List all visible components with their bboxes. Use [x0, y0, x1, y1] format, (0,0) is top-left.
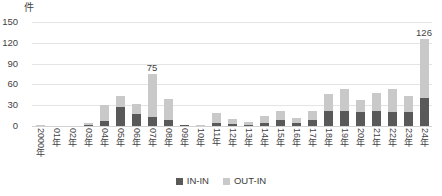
x-axis-tick-label: 09年	[180, 128, 189, 147]
x-axis-tick: 01年	[48, 128, 64, 172]
bar-segment-in-in	[84, 125, 93, 126]
bar-stack[interactable]	[260, 116, 269, 126]
x-axis-tick-label: 08年	[164, 128, 173, 147]
x-axis-tick-label: 2000年	[36, 128, 45, 157]
bar-slot	[288, 22, 304, 126]
bar-slot	[208, 22, 224, 126]
y-axis-tick-label: 30	[0, 100, 18, 110]
bar-stack[interactable]	[228, 119, 237, 126]
x-axis-tick: 21年	[368, 128, 384, 172]
bar-segment-out-in	[308, 111, 317, 119]
x-axis-tick-label: 07年	[148, 128, 157, 147]
x-axis-tick: 14年	[256, 128, 272, 172]
x-axis-tick-label: 19年	[340, 128, 349, 147]
bar-segment-in-in	[116, 107, 125, 126]
x-axis-tick-label: 12年	[228, 128, 237, 147]
bar-segment-out-in	[420, 39, 429, 99]
bar-segment-in-in	[324, 111, 333, 126]
x-axis-tick: 02年	[64, 128, 80, 172]
bar-slot	[368, 22, 384, 126]
bar-slot	[320, 22, 336, 126]
y-axis-tick-label: 60	[0, 79, 18, 89]
bar-segment-out-in	[116, 96, 125, 107]
bar-segment-out-in	[100, 105, 109, 122]
legend-swatch-out-in-icon	[223, 178, 230, 185]
bar-segment-in-in	[276, 120, 285, 126]
bar-stack[interactable]	[292, 118, 301, 126]
x-axis-tick-label: 02年	[68, 128, 77, 147]
legend-label-in-in: IN-IN	[187, 176, 209, 186]
bar-segment-out-in	[196, 125, 205, 126]
bar-stack[interactable]	[276, 111, 285, 126]
x-axis-tick: 24年	[416, 128, 432, 172]
bar-segment-in-in	[308, 120, 317, 126]
bar-segment-in-in	[292, 123, 301, 126]
x-axis-tick-label: 21年	[372, 128, 381, 147]
x-axis-tick-label: 05年	[116, 128, 125, 147]
y-axis-tick-label: 90	[0, 59, 18, 69]
bar-stack[interactable]	[132, 104, 141, 126]
bar-stack[interactable]	[180, 125, 189, 126]
bar-slot	[112, 22, 128, 126]
x-axis-tick-label: 01年	[52, 128, 61, 147]
bar-segment-in-in	[340, 111, 349, 126]
chart-legend: IN-IN OUT-IN	[0, 176, 442, 186]
x-axis-tick: 06年	[128, 128, 144, 172]
x-axis-tick: 17年	[304, 128, 320, 172]
bar-segment-out-in	[260, 116, 269, 124]
x-axis-tick-label: 03年	[84, 128, 93, 147]
bar-stack[interactable]	[308, 111, 317, 126]
bar-slot	[96, 22, 112, 126]
x-axis-tick-label: 23年	[404, 128, 413, 147]
x-axis-tick: 03年	[80, 128, 96, 172]
y-axis-tick-label: 150	[0, 17, 18, 27]
bar-stack[interactable]	[36, 125, 45, 126]
x-axis-tick-label: 16年	[292, 128, 301, 147]
bar-segment-out-in	[404, 96, 413, 112]
bar-slot	[400, 22, 416, 126]
x-axis-tick: 2000年	[32, 128, 48, 172]
bar-segment-in-in	[244, 125, 253, 126]
bar-slot	[192, 22, 208, 126]
bar-stack[interactable]	[100, 105, 109, 126]
x-axis-tick: 05年	[112, 128, 128, 172]
x-axis-tick: 23年	[400, 128, 416, 172]
bar-stack[interactable]: 75	[148, 74, 157, 126]
bar-stack[interactable]	[116, 96, 125, 126]
bar-stack[interactable]	[340, 89, 349, 126]
bar-stack[interactable]	[196, 125, 205, 126]
bar-stack[interactable]	[404, 96, 413, 126]
bar-stack[interactable]	[212, 113, 221, 126]
x-axis-tick-label: 14年	[260, 128, 269, 147]
bar-stack[interactable]	[84, 123, 93, 126]
bar-segment-in-in	[132, 114, 141, 126]
bar-segment-out-in	[388, 89, 397, 112]
bar-segment-in-in	[356, 112, 365, 126]
bar-slot	[64, 22, 80, 126]
bar-stack[interactable]	[244, 122, 253, 126]
bar-slot	[256, 22, 272, 126]
bar-slot	[352, 22, 368, 126]
bar-slot	[176, 22, 192, 126]
stacked-bar-chart: 件 1501209060300 75126 2000年01年02年03年04年0…	[0, 0, 442, 196]
bar-stack[interactable]	[372, 93, 381, 126]
bar-slot	[304, 22, 320, 126]
bar-segment-in-in	[212, 123, 221, 126]
bar-slot	[272, 22, 288, 126]
x-axis-tick-label: 24年	[420, 128, 429, 147]
bar-stack[interactable]	[356, 100, 365, 126]
plot-area: 1501209060300 75126	[32, 22, 432, 126]
legend-entry-out-in: OUT-IN	[223, 176, 266, 186]
gridline	[32, 126, 432, 127]
bar-stack[interactable]: 126	[420, 39, 429, 126]
bar-stack[interactable]	[324, 94, 333, 126]
bar-segment-in-in	[372, 111, 381, 126]
x-axis-tick-label: 20年	[356, 128, 365, 147]
bar-stack[interactable]	[388, 89, 397, 126]
bar-slot	[224, 22, 240, 126]
x-axis-tick-label: 13年	[244, 128, 253, 147]
x-axis-tick-label: 15年	[276, 128, 285, 147]
bar-slot	[336, 22, 352, 126]
x-axis-tick: 12年	[224, 128, 240, 172]
bar-stack[interactable]	[164, 99, 173, 126]
